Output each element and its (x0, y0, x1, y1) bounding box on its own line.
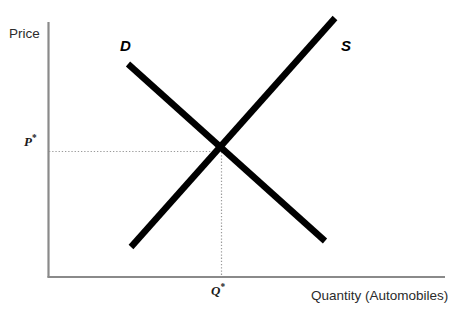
chart-canvas (0, 0, 456, 317)
y-axis-label: Price (9, 27, 40, 41)
equilibrium-quantity-star: * (220, 282, 225, 292)
supply-curve-label: S (341, 38, 351, 53)
equilibrium-quantity-tick-label: Q* (211, 283, 225, 297)
supply-curve (131, 18, 335, 247)
x-axis-label: Quantity (Automobiles) (311, 289, 448, 303)
equilibrium-price-star: * (32, 133, 37, 143)
equilibrium-quantity-letter: Q (211, 283, 220, 298)
equilibrium-price-letter: P (24, 134, 32, 149)
equilibrium-price-tick-label: P* (24, 134, 37, 148)
demand-curve-label: D (120, 38, 131, 53)
supply-demand-chart: Price Quantity (Automobiles) D S P* Q* (0, 0, 456, 317)
